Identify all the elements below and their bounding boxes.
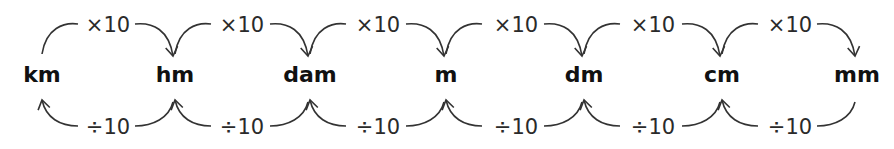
unit-mm: mm [834,62,880,87]
divide-label-cm-dm: ÷10 [629,115,677,139]
multiply-label-km-hm: ×10 [84,13,132,37]
divide-label-dam-hm: ÷10 [218,115,266,139]
unit-dam: dam [283,62,337,87]
divide-label-mm-cm: ÷10 [766,115,814,139]
multiply-label-cm-mm: ×10 [766,13,814,37]
multiply-label-hm-dam: ×10 [218,13,266,37]
unit-conversion-diagram: km hm dam m dm cm mm ×10 ×10 ×10 ×10 ×10… [0,0,894,149]
unit-m: m [435,62,458,87]
divide-label-m-dam: ÷10 [354,115,402,139]
multiply-label-m-dm: ×10 [492,13,540,37]
divide-label-dm-m: ÷10 [492,115,540,139]
unit-dm: dm [565,62,604,87]
multiply-label-dm-cm: ×10 [629,13,677,37]
unit-cm: cm [704,62,740,87]
divide-label-hm-km: ÷10 [84,115,132,139]
unit-hm: hm [156,62,195,87]
multiply-label-dam-m: ×10 [354,13,402,37]
unit-km: km [23,62,61,87]
